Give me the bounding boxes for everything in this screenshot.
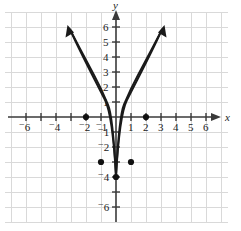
x-tick-label-2: 2 [143,122,149,133]
y-tick-label--1: −1 [98,127,109,138]
y-axis [112,10,120,222]
y-tick-label--2: −2 [98,142,109,153]
y-tick-label--6: −6 [98,202,109,213]
y-tick-label-3: 3 [103,67,109,78]
point-left [98,159,104,165]
graph-canvas [0,0,241,231]
y-tick-label-1: 1 [103,97,109,108]
x-axis [8,113,221,121]
x-tick-label--2: −2 [79,122,90,133]
x-tick-label-6: 6 [203,122,209,133]
point-x-intercept-right [143,114,149,120]
y-tick-label-6: 6 [103,22,109,33]
point-right [128,159,134,165]
y-axis-label: y [113,0,118,11]
x-tick-label--6: −6 [19,122,30,133]
y-tick-label-4: 4 [103,52,109,63]
y-tick-label--4: −4 [98,172,109,183]
point-vertex [113,174,119,180]
x-axis-label: x [225,112,230,123]
x-tick-label-4: 4 [173,122,179,133]
y-tick-label-5: 5 [103,37,109,48]
y-tick-label-2: 2 [103,82,109,93]
x-tick-label-5: 5 [188,122,194,133]
x-tick-label--4: −4 [49,122,60,133]
coordinate-graph: −6 −4 −2 −1 1 2 3 4 5 6 6 5 4 3 2 1 −1 −… [0,0,241,231]
x-tick-label-1: 1 [128,122,134,133]
x-tick-label-3: 3 [158,122,164,133]
